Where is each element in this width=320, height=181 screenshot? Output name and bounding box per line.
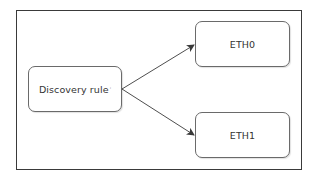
node-eth1[interactable]: ETH1 bbox=[195, 112, 290, 158]
node-eth1-label: ETH1 bbox=[230, 130, 255, 141]
node-discovery-rule-label: Discovery rule bbox=[39, 84, 109, 95]
stray-mark: ' bbox=[110, 86, 111, 92]
node-discovery-rule[interactable]: Discovery rule' bbox=[28, 66, 122, 112]
node-eth0[interactable]: ETH0 bbox=[195, 21, 290, 67]
node-eth0-label: ETH0 bbox=[230, 39, 255, 50]
